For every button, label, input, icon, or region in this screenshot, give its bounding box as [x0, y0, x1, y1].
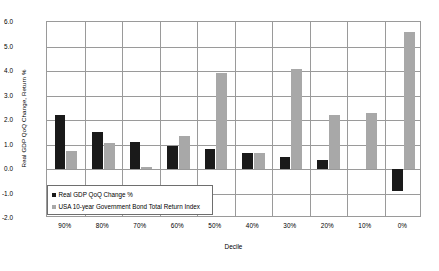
x-axis-tick-label: 40% [234, 222, 272, 229]
bar-bond [141, 167, 152, 169]
x-axis-tick-label: 30% [271, 222, 309, 229]
bar-bond [179, 136, 190, 169]
bar-bond [291, 69, 302, 169]
legend-swatch-icon [52, 193, 56, 197]
x-axis-tick-label: 80% [84, 222, 122, 229]
y-axis-tick-label: 4.0 [0, 67, 18, 74]
y-axis-title: Real GDP QoQ Change, Return % [20, 44, 27, 194]
legend-item: USA 10-year Government Bond Total Return… [52, 201, 208, 213]
bar-gdp [92, 132, 103, 169]
y-axis-tick-label: 0.0 [0, 165, 18, 172]
bar-bond [329, 115, 340, 169]
x-axis-tick-label: 90% [46, 222, 84, 229]
x-axis-tick-label: 50% [196, 222, 234, 229]
bar-group [385, 22, 423, 216]
legend-item-label: USA 10-year Government Bond Total Return… [59, 204, 200, 210]
bar-group [347, 22, 385, 216]
bar-bond [104, 143, 115, 169]
bar-bond [366, 113, 377, 169]
bar-gdp [167, 146, 178, 169]
legend-item: Real GDP QoQ Change % [52, 189, 208, 201]
bar-gdp [130, 142, 141, 169]
y-axis-tick-label: 6.0 [0, 18, 18, 25]
bar-gdp [55, 115, 66, 169]
x-axis-title: Decile [46, 243, 421, 250]
y-axis-tick-label: 5.0 [0, 42, 18, 49]
bar-gdp [317, 160, 328, 169]
x-axis-tick-label: 60% [159, 222, 197, 229]
chart-legend: Real GDP QoQ Change %USA 10-year Governm… [47, 185, 213, 215]
bar-gdp [242, 153, 253, 169]
bar-bond [216, 73, 227, 169]
bar-bond [254, 153, 265, 169]
bar-group [310, 22, 348, 216]
y-axis-tick-label: 1.0 [0, 140, 18, 147]
bar-gdp [205, 149, 216, 169]
bar-gdp [392, 169, 403, 191]
legend-item-label: Real GDP QoQ Change % [59, 192, 133, 198]
bar-bond [404, 32, 415, 169]
bar-chart: Real GDP QoQ Change, Return % 6.05.04.03… [0, 0, 439, 271]
y-axis-tick-label: 3.0 [0, 91, 18, 98]
y-axis-tick-label: 2.0 [0, 116, 18, 123]
bar-bond [66, 151, 77, 169]
legend-swatch-icon [52, 205, 56, 209]
bar-gdp [280, 157, 291, 169]
bar-group [272, 22, 310, 216]
x-axis-tick-label: 70% [121, 222, 159, 229]
x-axis-tick-label: 0% [384, 222, 422, 229]
x-axis-tick-label: 10% [346, 222, 384, 229]
bar-group [235, 22, 273, 216]
x-axis-tick-label: 20% [309, 222, 347, 229]
y-axis-tick-label: -1.0 [0, 189, 18, 196]
y-axis-tick-label: -2.0 [0, 214, 18, 221]
